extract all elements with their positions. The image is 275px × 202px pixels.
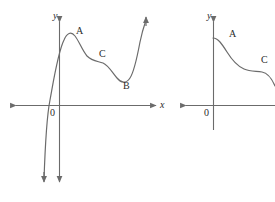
left-x-axis-label: x: [160, 100, 164, 110]
figure-canvas: y x 0 A C B y 0 A C: [0, 0, 275, 202]
left-axes: [16, 22, 156, 182]
left-point-label-a: A: [76, 26, 83, 36]
right-point-label-a: A: [229, 29, 236, 39]
right-y-axis-label: y: [207, 11, 211, 21]
right-origin-label: 0: [204, 108, 209, 118]
left-point-label-b: B: [123, 81, 130, 91]
left-y-axis-label: y: [53, 11, 57, 21]
left-point-label-c: C: [99, 49, 106, 59]
left-origin-label: 0: [50, 108, 55, 118]
right-point-label-c: C: [261, 55, 268, 65]
